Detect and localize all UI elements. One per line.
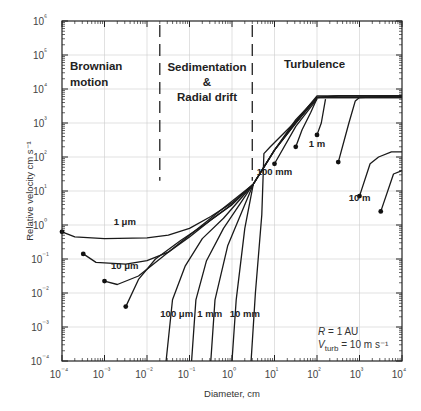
- velocity-curves: [60, 96, 402, 361]
- y-tick-label: 10⁰: [33, 217, 47, 231]
- y-tick-label: 10⁻²: [31, 285, 49, 299]
- curve-start-dot: [102, 279, 107, 284]
- curve-label: 1 mm: [197, 308, 222, 319]
- curve-start-dot: [81, 252, 86, 257]
- region-sedimentation: Sedimentation & Radial drift: [167, 61, 246, 103]
- region-label-line: Brownian: [70, 60, 122, 72]
- x-tick-label: 10⁻³: [93, 366, 111, 380]
- y-tick-label: 10¹: [33, 183, 47, 197]
- region-turbulence: Turbulence: [284, 58, 345, 70]
- curve-start-dot: [378, 209, 383, 214]
- curve-label: 1 μm: [114, 216, 136, 227]
- y-tick-label: 10⁻¹: [31, 251, 49, 265]
- region-label-line: Turbulence: [284, 58, 345, 70]
- curve-label: 10 m: [349, 192, 371, 203]
- region-label-line: Radial drift: [177, 91, 237, 103]
- region-label-line: motion: [70, 76, 108, 88]
- velocity-curve: [83, 96, 402, 264]
- radius-annotation: R = 1 AU: [318, 326, 358, 337]
- turbulence-velocity-annotation: Vturb = 10 m s⁻¹: [318, 339, 389, 353]
- x-tick-label: 10⁴: [392, 366, 406, 380]
- curve-label: 100 μm: [160, 308, 193, 319]
- curve-label: 100 mm: [257, 166, 292, 177]
- parameter-annotation: R = 1 AU Vturb = 10 m s⁻¹: [318, 326, 389, 353]
- x-tick-label: 10⁻⁴: [50, 366, 68, 380]
- curve-start-dot: [123, 304, 128, 309]
- y-tick-label: 10³: [33, 115, 47, 129]
- y-axis-label: Relative velocity cm s⁻¹: [24, 141, 35, 241]
- curve-start-dot: [336, 160, 341, 165]
- x-tick-label: 10⁰: [222, 366, 236, 380]
- region-label-line: &: [203, 76, 211, 88]
- curve-start-dot: [293, 144, 298, 149]
- velocity-curve: [317, 99, 326, 135]
- y-tick-label: 10⁻⁴: [31, 353, 49, 367]
- region-label-line: Sedimentation: [167, 61, 246, 73]
- x-tick-label: 10¹: [265, 366, 279, 380]
- velocity-curve: [251, 96, 402, 361]
- region-brownian: Brownian motion: [70, 60, 122, 88]
- x-tick-label: 10⁻²: [135, 366, 153, 380]
- x-tick-label: 10³: [350, 366, 364, 380]
- velocity-curve: [166, 184, 253, 361]
- y-tick-label: 10⁶: [33, 13, 47, 27]
- y-tick-label: 10⁴: [33, 81, 47, 95]
- velocity-curve: [275, 99, 318, 164]
- curve-start-dot: [315, 133, 320, 138]
- curve-label: 1 m: [309, 138, 325, 149]
- x-axis-label: Diameter, cm: [204, 388, 260, 399]
- x-tick-labels: 10⁻⁴10⁻³10⁻²10⁻¹10⁰10¹10²10³10⁴: [50, 366, 406, 380]
- curve-label: 10 mm: [230, 308, 260, 319]
- velocity-curve: [360, 152, 403, 196]
- relative-velocity-chart: 10⁻⁴10⁻³10⁻²10⁻¹10⁰10¹10²10³10⁴ 10⁻⁴10⁻³…: [0, 0, 421, 411]
- x-tick-label: 10⁻¹: [178, 366, 196, 380]
- curve-labels: 1 μm10 μm100 μm1 mm10 mm100 mm1 m10 m: [111, 138, 370, 319]
- y-tick-label: 10⁵: [33, 47, 47, 61]
- curve-label: 10 μm: [111, 260, 138, 271]
- y-tick-label: 10⁻³: [31, 319, 49, 333]
- x-tick-label: 10²: [307, 366, 321, 380]
- y-tick-label: 10²: [33, 149, 47, 163]
